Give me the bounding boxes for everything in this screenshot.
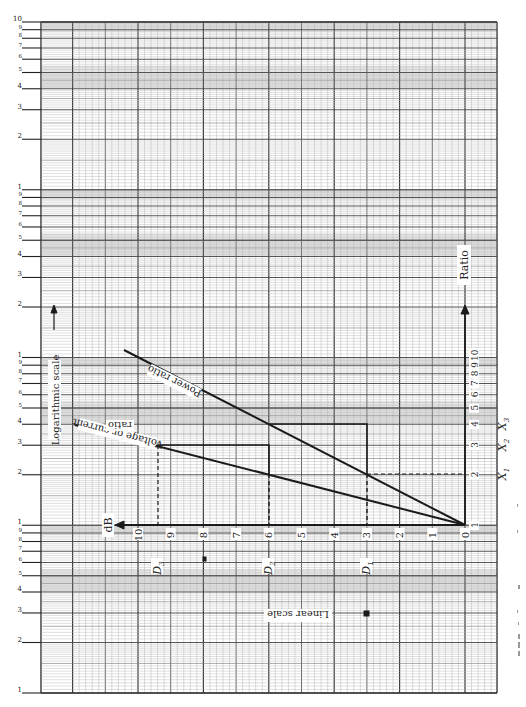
linear-scale-marker [364,611,369,616]
graph-figure: 10987654321987654321987654321987654321 0… [0,0,526,707]
log-scale-tick-label: 7 [19,545,23,551]
log-scale-tick-label: 6 [19,389,23,395]
log-scale-tick-label: 2 [18,132,22,140]
log-scale-tick-label: 1 [18,183,22,191]
log-scale-tick-label: 3 [18,606,22,614]
ratio-tick-label: 1 [470,522,480,528]
log-scale-tick-label: 4 [18,250,23,258]
grid-lines [41,22,497,693]
db-tick-label: 5 [296,532,307,538]
log-scale-tick-label: 2 [18,300,22,308]
linear-scale-label: Linear scale [267,609,329,620]
log-scale-tick-label: 9 [19,191,23,197]
db-tick-label: 10 [133,529,144,542]
db-tick-label: 0 [460,532,471,538]
log-scale-tick-label: 4 [18,417,23,425]
ratio-tick-label: 3 [470,442,480,448]
log-scale-tick-label: 2 [18,468,22,476]
ratio-axis-label: Ratio [458,250,471,280]
log-scale-label: Logarithmic scale [50,355,61,446]
x2-marker: X2 [496,438,511,452]
ratio-tick-label: 2 [470,472,480,478]
x3-marker: X3 [496,417,511,431]
log-scale-tick-label: 5 [19,66,23,72]
ratio-tick-label: 5 [470,405,480,411]
log-scale-tick-label: 4 [18,82,23,90]
ratio-tick-label: 9 [470,362,480,368]
log-scale-ticks: 10987654321987654321987654321987654321 [13,15,41,694]
x1-marker: X1 [496,468,511,481]
log-scale-tick-label: 10 [13,15,22,23]
log-scale-tick-label: 9 [19,527,23,533]
log-scale-tick-label: 7 [19,42,23,48]
log-scale-tick-label: 7 [19,377,23,383]
voltage-ratio-label-2: ratio [108,420,132,431]
db-tick-label: 7 [231,532,242,538]
db-axis-label: dB [102,517,115,532]
ratio-tick-label: 4 [470,421,480,427]
db-tick-label: 1 [427,532,438,538]
log-scale-tick-label: 8 [19,368,23,374]
log-scale-tick-label: 1 [18,686,22,694]
log-scale-tick-label: 6 [19,53,23,59]
ratio-tick-label: 8 [470,370,480,376]
log-scale-tick-label: 6 [19,556,23,562]
log-scale-tick-label: 4 [18,585,23,593]
db-tick-label: 9 [165,532,176,538]
log-scale-tick-label: 9 [19,359,23,365]
log-scale-tick-label: 8 [19,200,23,206]
db-tick-label: 6 [263,532,274,538]
log-scale-tick-label: 1 [18,518,22,526]
log-scale-tick-label: 9 [19,24,23,30]
ratio-tick-label: 7 [470,380,480,386]
log-scale-tick-label: 2 [18,636,22,644]
log-scale-tick-label: 6 [19,221,23,227]
log-scale-tick-label: 8 [19,32,23,38]
ratio-tick-label: 10 [470,349,480,361]
log-scale-tick-label: 3 [18,103,22,111]
db-tick-label: 8 [198,532,209,538]
db-tick-label: 3 [361,532,372,538]
log-scale-tick-label: 5 [19,570,23,576]
log-scale-tick-label: 3 [18,438,22,446]
log-scale-tick-label: 1 [18,351,22,359]
caption-marks [517,504,520,656]
log-scale-tick-label: 5 [19,234,23,240]
db-tick-label: 4 [329,532,340,538]
db-tick-label: 2 [394,532,405,538]
log-scale-tick-label: 8 [19,536,23,542]
ratio-tick-label: 6 [470,391,480,397]
db-8-marker [203,557,206,561]
log-scale-tick-label: 3 [18,270,22,278]
log-scale-tick-label: 5 [19,402,23,408]
ratio-arrow-icon [461,305,469,314]
log-scale-tick-label: 7 [19,210,23,216]
axis-text: dB Ratio Logarithmic scale Linear scale … [48,245,511,622]
